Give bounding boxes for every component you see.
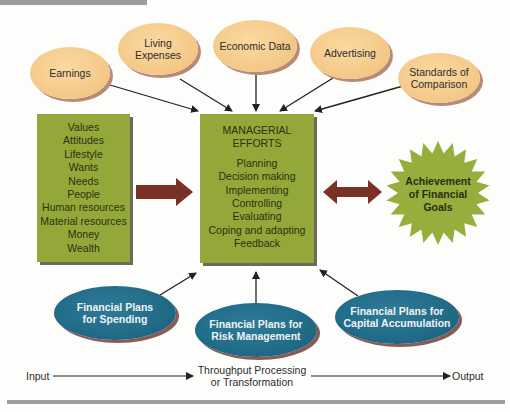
input-item: Values bbox=[37, 121, 130, 134]
output-label: Output bbox=[452, 370, 484, 382]
effort-item: Implementing bbox=[200, 184, 314, 197]
arrow-earnings bbox=[110, 85, 198, 111]
risk-management-plan-oval: Financial Plans for Risk Management bbox=[195, 303, 317, 357]
spending-plan-oval: Financial Plans for Spending bbox=[54, 286, 176, 340]
managerial-efforts-box: MANAGERIAL EFFORTS Planning Decision mak… bbox=[200, 114, 314, 263]
economic-data-oval: Economic Data bbox=[213, 20, 297, 72]
capital-accumulation-plan-oval: Financial Plans for Capital Accumulation bbox=[335, 290, 459, 344]
effort-item: Evaluating bbox=[200, 210, 314, 223]
arrow-living-expenses bbox=[180, 79, 232, 111]
goal-label: Achievement of Financial Goals bbox=[383, 175, 493, 214]
effort-item: Planning bbox=[200, 157, 314, 170]
advertising-oval: Advertising bbox=[310, 27, 390, 79]
effort-item: Controlling bbox=[200, 197, 314, 210]
input-item: Human resources bbox=[37, 201, 130, 214]
effort-item: Coping and adapting bbox=[200, 224, 314, 237]
living-expenses-oval: Living Expenses bbox=[118, 23, 198, 75]
input-item: Needs bbox=[37, 175, 130, 188]
standards-label: Standards of Comparison bbox=[409, 66, 469, 90]
arrow-advertising bbox=[280, 78, 333, 111]
efforts-goals-double-arrow bbox=[323, 180, 382, 204]
earnings-oval: Earnings bbox=[30, 47, 110, 99]
input-item: Lifestyle bbox=[37, 148, 130, 161]
input-item: Material resources bbox=[37, 215, 130, 228]
arrow-standards bbox=[315, 86, 403, 111]
arrow-capital bbox=[320, 270, 358, 296]
input-item: Money bbox=[37, 228, 130, 241]
effort-item: Feedback bbox=[200, 237, 314, 250]
input-item: Wants bbox=[37, 161, 130, 174]
advertising-label: Advertising bbox=[324, 47, 376, 59]
input-label: Input bbox=[26, 370, 49, 382]
input-item: People bbox=[37, 188, 130, 201]
living-expenses-label: Living Expenses bbox=[135, 37, 181, 61]
input-to-efforts-arrow bbox=[136, 178, 193, 206]
bottom-rule bbox=[7, 400, 505, 404]
economic-data-label: Economic Data bbox=[219, 40, 290, 52]
standards-oval: Standards of Comparison bbox=[398, 53, 480, 103]
effort-item: Decision making bbox=[200, 170, 314, 183]
efforts-title: EFFORTS bbox=[200, 137, 314, 150]
earnings-label: Earnings bbox=[49, 67, 90, 79]
throughput-label: Throughput Processing or Transformation bbox=[195, 364, 309, 388]
inputs-box: Values Attitudes Lifestyle Wants Needs P… bbox=[37, 114, 130, 262]
input-item: Attitudes bbox=[37, 134, 130, 147]
input-item: Wealth bbox=[37, 242, 130, 255]
efforts-title: MANAGERIAL bbox=[200, 124, 314, 137]
arrow-spending bbox=[160, 273, 196, 295]
